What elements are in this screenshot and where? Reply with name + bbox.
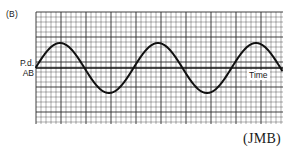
x-axis-label: Time <box>247 70 270 80</box>
source-label: (JMB) <box>243 131 281 147</box>
